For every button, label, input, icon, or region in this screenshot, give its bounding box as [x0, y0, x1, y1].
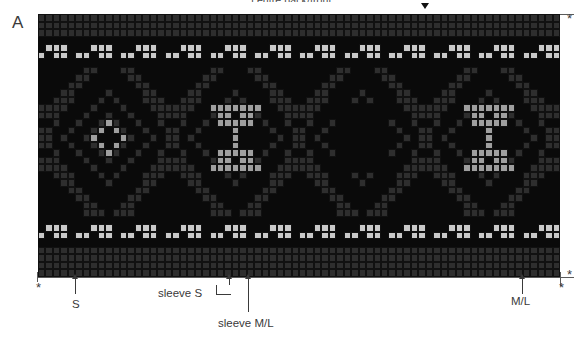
chart-cell — [553, 224, 560, 232]
chart-cell — [135, 37, 142, 45]
chart-cell — [471, 224, 478, 232]
chart-cell — [142, 134, 149, 142]
chart-cell — [463, 157, 470, 165]
chart-cell — [336, 44, 343, 52]
chart-cell — [545, 179, 552, 187]
chart-cell — [210, 194, 217, 202]
chart-cell — [374, 172, 381, 180]
chart-cell — [545, 172, 552, 180]
chart-cell — [202, 89, 209, 97]
chart-cell — [351, 44, 358, 52]
chart-cell — [433, 89, 440, 97]
chart-cell — [254, 239, 261, 247]
chart-cell — [359, 119, 366, 127]
chart-cell — [478, 14, 485, 22]
chart-cell — [105, 209, 112, 217]
chart-cell — [217, 142, 224, 150]
chart-cell — [515, 127, 522, 135]
chart-cell — [374, 97, 381, 105]
chart-cell — [105, 202, 112, 210]
chart-cell — [53, 179, 60, 187]
chart-cell — [329, 232, 336, 240]
chart-cell — [239, 82, 246, 90]
chart-cell — [232, 239, 239, 247]
chart-cell — [269, 89, 276, 97]
chart-cell — [508, 52, 515, 60]
chart-cell — [344, 82, 351, 90]
chart-cell — [90, 89, 97, 97]
chart-cell — [463, 127, 470, 135]
chart-cell — [105, 157, 112, 165]
chart-cell — [478, 104, 485, 112]
chart-cell — [508, 254, 515, 262]
chart-cell — [321, 134, 328, 142]
chart-cell — [90, 104, 97, 112]
chart-cell — [135, 209, 142, 217]
chart-cell — [217, 187, 224, 195]
chart-cell — [224, 22, 231, 30]
chart-cell — [329, 14, 336, 22]
chart-cell — [471, 82, 478, 90]
chart-cell — [500, 239, 507, 247]
chart-cell — [277, 59, 284, 67]
chart-cell — [247, 254, 254, 262]
chart-cell — [202, 119, 209, 127]
chart-cell — [396, 82, 403, 90]
chart-cell — [299, 209, 306, 217]
chart-cell — [493, 22, 500, 30]
chart-cell — [38, 67, 45, 75]
chart-cell — [433, 202, 440, 210]
chart-cell — [142, 59, 149, 67]
chart-cell — [45, 254, 52, 262]
chart-cell — [553, 149, 560, 157]
chart-cell — [471, 164, 478, 172]
chart-cell — [165, 164, 172, 172]
chart-cell — [306, 172, 313, 180]
chart-cell — [98, 119, 105, 127]
chart-cell — [187, 112, 194, 120]
chart-cell — [500, 172, 507, 180]
chart-cell — [553, 142, 560, 150]
chart-cell — [284, 172, 291, 180]
chart-cell — [75, 112, 82, 120]
chart-cell — [224, 29, 231, 37]
chart-cell — [165, 202, 172, 210]
chart-cell — [515, 262, 522, 270]
chart-cell — [500, 59, 507, 67]
chart-cell — [403, 239, 410, 247]
chart-cell — [38, 179, 45, 187]
chart-cell — [299, 22, 306, 30]
chart-cell — [448, 179, 455, 187]
chart-cell — [277, 89, 284, 97]
chart-cell — [396, 247, 403, 255]
chart-cell — [523, 29, 530, 37]
chart-cell — [68, 172, 75, 180]
chart-cell — [426, 112, 433, 120]
chart-cell — [157, 29, 164, 37]
chart-cell — [232, 179, 239, 187]
chart-cell — [239, 239, 246, 247]
chart-cell — [135, 134, 142, 142]
chart-cell — [277, 44, 284, 52]
chart-cell — [150, 172, 157, 180]
chart-cell — [120, 134, 127, 142]
chart-cell — [292, 187, 299, 195]
chart-cell — [545, 37, 552, 45]
chart-cell — [68, 44, 75, 52]
chart-cell — [105, 119, 112, 127]
chart-cell — [262, 247, 269, 255]
chart-cell — [336, 179, 343, 187]
chart-cell — [314, 44, 321, 52]
chart-cell — [135, 97, 142, 105]
chart-cell — [344, 232, 351, 240]
chart-cell — [508, 82, 515, 90]
chart-cell — [485, 82, 492, 90]
chart-cell — [142, 82, 149, 90]
chart-cell — [329, 224, 336, 232]
chart-cell — [471, 202, 478, 210]
chart-cell — [299, 52, 306, 60]
chart-cell — [456, 29, 463, 37]
chart-cell — [306, 82, 313, 90]
chart-cell — [90, 232, 97, 240]
chart-cell — [284, 262, 291, 270]
